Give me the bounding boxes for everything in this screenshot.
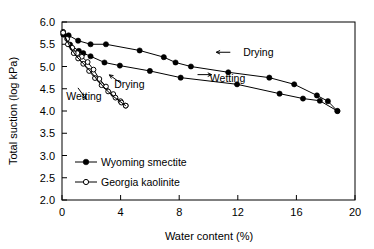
data-point-filled <box>277 91 282 96</box>
data-point-filled <box>147 68 152 73</box>
data-point-filled <box>267 75 272 80</box>
y-tick-label: 5.5 <box>40 38 55 50</box>
data-point-filled <box>325 99 330 104</box>
x-axis-title: Water content (%) <box>165 230 253 242</box>
y-axis-title: Total suction (log kPa) <box>7 57 19 165</box>
data-point-filled <box>88 42 93 47</box>
y-tick-label: 6.0 <box>40 16 55 28</box>
annotation-label: Drying <box>114 78 145 90</box>
annotation-drying-up-left: Drying <box>109 75 144 90</box>
data-point-filled <box>178 75 183 80</box>
y-tick-label: 4.5 <box>40 83 55 95</box>
data-point-filled <box>117 63 122 68</box>
data-point-filled <box>102 60 107 65</box>
data-point-filled <box>137 48 142 53</box>
data-point-filled <box>188 64 193 69</box>
annotation-wetting-down-right: Wetting <box>66 88 102 102</box>
x-tick-label: 4 <box>118 206 124 218</box>
data-point-filled <box>317 98 322 103</box>
x-tick-label: 16 <box>290 206 302 218</box>
annotation-label: Drying <box>243 46 274 58</box>
data-point-filled <box>300 96 305 101</box>
data-point-filled <box>161 55 166 60</box>
chart-background <box>0 0 374 249</box>
y-tick-label: 2.5 <box>40 172 55 184</box>
suction-water-content-chart: 2.02.53.03.54.04.55.05.56.0 048121620 Dr… <box>0 0 374 249</box>
x-tick-label: 8 <box>176 206 182 218</box>
data-point-filled <box>88 54 93 59</box>
data-point-filled <box>335 108 340 113</box>
annotation-label: Wetting <box>210 72 246 84</box>
legend-label: Georgia kaolinite <box>101 176 180 188</box>
x-tick-label: 12 <box>232 206 244 218</box>
data-point-filled <box>292 82 297 87</box>
x-tick-label: 20 <box>349 206 361 218</box>
legend-label: Wyoming smectite <box>101 156 187 168</box>
y-tick-label: 5.0 <box>40 61 55 73</box>
legend-marker-filled-circle <box>83 159 89 165</box>
data-point-filled <box>314 93 319 98</box>
y-tick-label: 2.0 <box>40 194 55 206</box>
data-point-open <box>61 30 66 35</box>
data-point-filled <box>76 38 81 43</box>
y-axis-tick-labels: 2.02.53.03.54.04.55.05.56.0 <box>40 16 55 206</box>
data-point-filled <box>173 60 178 65</box>
chart-container: 2.02.53.03.54.04.55.05.56.0 048121620 Dr… <box>0 0 374 249</box>
x-tick-label: 0 <box>59 206 65 218</box>
y-tick-label: 3.0 <box>40 150 55 162</box>
legend-marker-open-circle <box>83 179 88 184</box>
y-tick-label: 4.0 <box>40 105 55 117</box>
y-tick-label: 3.5 <box>40 127 55 139</box>
data-point-filled <box>103 42 108 47</box>
